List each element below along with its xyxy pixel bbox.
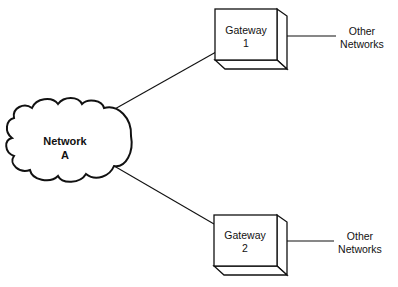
gateway-1-label-line2: 1 — [243, 37, 249, 49]
box-bottom-face — [215, 60, 287, 69]
box-right-face — [277, 9, 287, 69]
gateway-1-box[interactable]: Gateway 1 — [215, 9, 287, 69]
other-networks-1-line2: Networks — [340, 38, 384, 50]
edge-network-a-to-gateway-2 — [109, 163, 214, 224]
gateway-2-box[interactable]: Gateway 2 — [214, 215, 287, 275]
network-label-line1: Network — [43, 135, 87, 147]
other-networks-2-line2: Networks — [338, 243, 382, 255]
other-networks-1: Other Networks — [340, 25, 384, 50]
edge-network-a-to-gateway-1 — [113, 52, 216, 110]
box-bottom-face — [214, 266, 287, 275]
network-a-cloud[interactable]: Network A — [6, 98, 131, 182]
other-networks-2-line1: Other — [347, 230, 374, 242]
gateway-2-label-line2: 2 — [242, 242, 248, 254]
other-networks-2: Other Networks — [338, 230, 382, 255]
network-label-line2: A — [61, 149, 69, 161]
gateway-2-label-line1: Gateway — [224, 229, 266, 241]
gateway-1-label-line1: Gateway — [225, 24, 267, 36]
network-diagram: Network A Gateway 1 Gateway 2 Other — [0, 0, 398, 287]
box-right-face — [277, 215, 287, 275]
other-networks-1-line1: Other — [349, 25, 376, 37]
